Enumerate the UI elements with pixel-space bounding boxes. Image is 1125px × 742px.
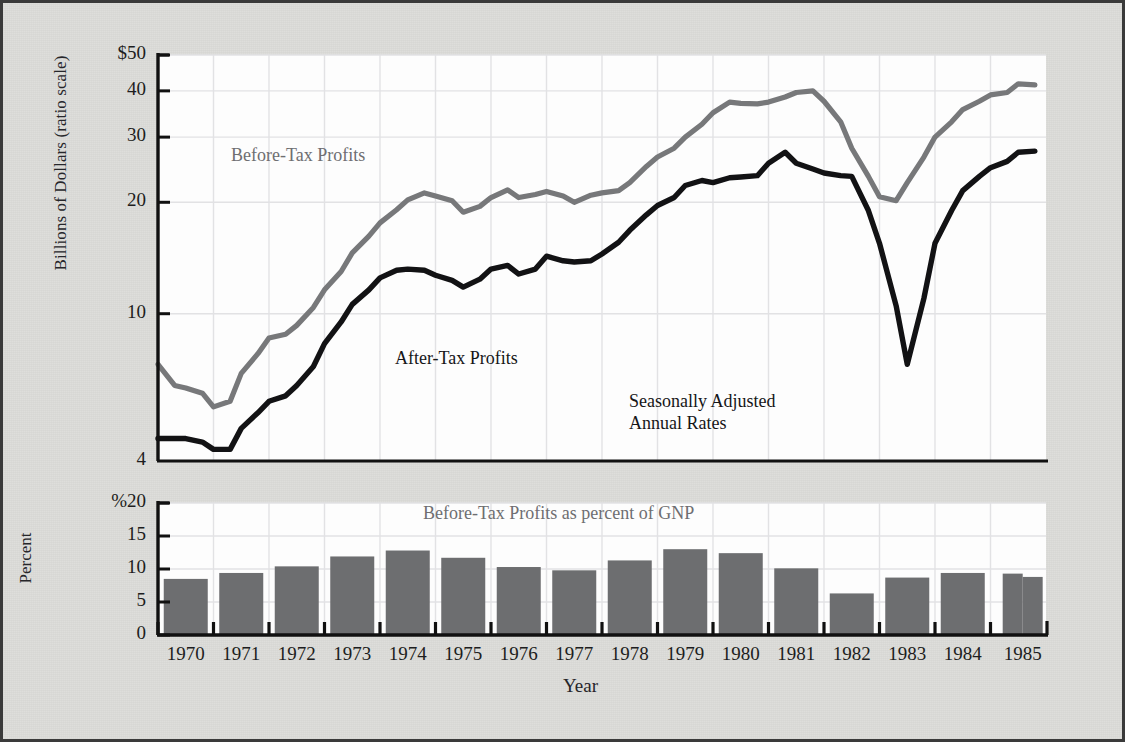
bar-1980 [719, 553, 763, 635]
bar-1982 [830, 593, 874, 635]
bar-1976 [497, 567, 541, 635]
bar-1984 [941, 573, 985, 635]
series-line-after-tax [158, 151, 1035, 449]
bar-1978 [608, 560, 652, 635]
annotation-bar-title: Before-Tax Profits as percent of GNP [423, 503, 694, 525]
bar-1983 [885, 578, 929, 635]
bar-1985-q2 [1023, 577, 1043, 635]
bar-1981 [774, 568, 818, 635]
series-line-before-tax [158, 84, 1035, 407]
bar-1985-q1 [1003, 574, 1023, 635]
y-tick-label-top-20: 20 [66, 189, 146, 211]
annotation-before-tax: Before-Tax Profits [231, 145, 365, 167]
y-tick-label-bottom-20: %20 [66, 490, 146, 512]
x-tick-label-1985: 1985 [989, 643, 1057, 665]
bar-1973 [330, 556, 374, 635]
y-tick-label-bottom-15: 15 [66, 523, 146, 545]
x-axis-title: Year [563, 675, 598, 697]
y-tick-label-bottom-5: 5 [66, 589, 146, 611]
y-tick-label-top-30: 30 [66, 124, 146, 146]
bar-1974 [386, 551, 430, 635]
bar-1977 [552, 570, 596, 635]
y-tick-label-bottom-10: 10 [66, 556, 146, 578]
bar-1971 [219, 573, 263, 635]
x-tick-label-1984: 1984 [929, 643, 997, 665]
bar-1975 [441, 558, 485, 635]
bar-1970 [164, 579, 208, 635]
bar-1979 [663, 549, 707, 635]
line-chart [3, 3, 1125, 742]
annotation-seasonal-note: Seasonally Adjusted Annual Rates [629, 391, 776, 435]
y-tick-label-top-40: 40 [66, 78, 146, 100]
y-tick-label-bottom-0: 0 [66, 622, 146, 644]
annotation-after-tax: After-Tax Profits [395, 348, 518, 370]
y-tick-label-top-50: $50 [66, 42, 146, 64]
y-axis-title-bottom: Percent [16, 493, 36, 623]
y-tick-label-top-4: 4 [66, 448, 146, 470]
figure-page: Billions of Dollars (ratio scale) Percen… [0, 0, 1125, 742]
bar-1972 [275, 566, 319, 635]
y-tick-label-top-10: 10 [66, 301, 146, 323]
